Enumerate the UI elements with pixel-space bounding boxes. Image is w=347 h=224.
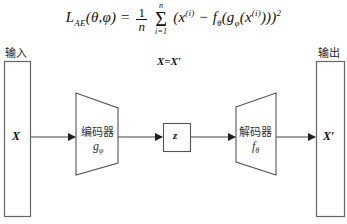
decoder-label: 解码器 (239, 123, 272, 139)
autoencoder-diagram (0, 0, 347, 224)
encoder-function: gφ (93, 139, 103, 155)
decoder-function: fθ (252, 139, 259, 155)
latent-variable: z (173, 129, 177, 141)
input-label: 输入 (5, 44, 27, 60)
encoder-label: 编码器 (81, 123, 114, 139)
equality-label: X=X′ (157, 55, 181, 67)
input-variable: X (12, 129, 20, 144)
output-variable: X′ (323, 129, 334, 144)
output-label: 输出 (318, 44, 340, 60)
